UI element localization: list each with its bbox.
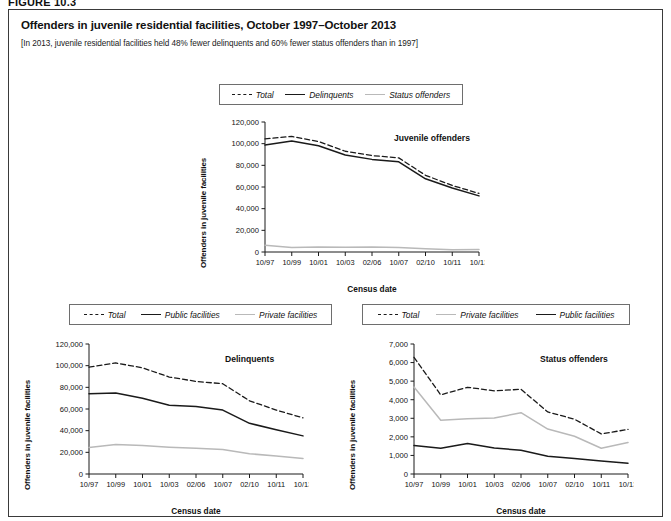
- legend-label: Delinquents: [309, 90, 353, 100]
- series-line: [414, 387, 628, 448]
- svg-text:120,000: 120,000: [232, 118, 259, 127]
- legend-item-public-facilities: Public facilities: [536, 310, 615, 320]
- svg-text:10/97: 10/97: [80, 480, 99, 489]
- svg-text:10/99: 10/99: [432, 480, 451, 489]
- panel-title: Juvenile offenders: [394, 133, 470, 143]
- svg-text:2,000: 2,000: [389, 433, 408, 442]
- svg-text:100,000: 100,000: [56, 361, 83, 370]
- x-axis-title: Census date: [386, 506, 656, 516]
- svg-text:40,000: 40,000: [236, 204, 259, 213]
- svg-text:02/06: 02/06: [363, 258, 382, 267]
- panel-title: Status offenders: [540, 354, 608, 364]
- legend-label: Total: [402, 310, 420, 320]
- svg-text:100,000: 100,000: [232, 139, 259, 148]
- page-title: Offenders in juvenile residential facili…: [21, 19, 396, 31]
- line-chart-svg: 020,00040,00060,00080,000100,000120,0001…: [29, 340, 309, 500]
- legend-item-private-facilities: Private facilities: [436, 310, 518, 320]
- legend-item-public-facilities: Public facilities: [141, 310, 220, 320]
- legend-item-delinquents: Delinquents: [285, 90, 353, 100]
- series-line: [414, 357, 628, 434]
- svg-text:10/13: 10/13: [294, 480, 309, 489]
- plot-status-offenders: 01,0002,0003,0004,0005,0006,0007,00010/9…: [354, 340, 634, 500]
- panel-title: Delinquents: [225, 354, 274, 364]
- legend-label: Total: [256, 90, 274, 100]
- svg-text:02/06: 02/06: [512, 480, 531, 489]
- svg-text:10/01: 10/01: [458, 480, 477, 489]
- svg-text:10/13: 10/13: [619, 480, 634, 489]
- plot-delinquents: 020,00040,00060,00080,000100,000120,0001…: [29, 340, 309, 500]
- svg-text:80,000: 80,000: [236, 161, 259, 170]
- svg-text:10/13: 10/13: [470, 258, 485, 267]
- legend-label: Public facilities: [560, 310, 615, 320]
- line-chart-svg: 01,0002,0003,0004,0005,0006,0007,00010/9…: [354, 340, 634, 500]
- svg-text:60,000: 60,000: [236, 183, 259, 192]
- svg-text:20,000: 20,000: [60, 448, 83, 457]
- panel-delinquents: Total Public facilities Private faciliti…: [9, 300, 344, 515]
- svg-text:7,000: 7,000: [389, 340, 408, 349]
- svg-text:0: 0: [404, 470, 408, 479]
- svg-text:5,000: 5,000: [389, 377, 408, 386]
- x-axis-title: Census date: [237, 284, 507, 294]
- svg-text:02/10: 02/10: [565, 480, 584, 489]
- svg-text:10/07: 10/07: [214, 480, 233, 489]
- svg-text:10/01: 10/01: [309, 258, 328, 267]
- legend-status-offenders: Total Private facilities Public faciliti…: [362, 304, 630, 325]
- series-line: [265, 141, 479, 196]
- svg-text:10/03: 10/03: [336, 258, 355, 267]
- legend-label: Public facilities: [165, 310, 220, 320]
- svg-text:10/11: 10/11: [592, 480, 610, 489]
- svg-text:40,000: 40,000: [60, 426, 83, 435]
- legend-label: Total: [108, 310, 126, 320]
- figure-number: FIGURE 10.3: [8, 0, 76, 8]
- svg-text:02/10: 02/10: [416, 258, 435, 267]
- x-axis-title: Census date: [61, 506, 331, 516]
- svg-text:10/97: 10/97: [405, 480, 424, 489]
- svg-text:10/01: 10/01: [133, 480, 152, 489]
- svg-text:60,000: 60,000: [60, 405, 83, 414]
- legend-item-private-facilities: Private facilities: [235, 310, 317, 320]
- series-line: [89, 363, 303, 418]
- panel-status-offenders: Total Private facilities Public faciliti…: [334, 300, 664, 515]
- svg-text:10/99: 10/99: [107, 480, 126, 489]
- svg-text:10/07: 10/07: [390, 258, 409, 267]
- svg-text:02/10: 02/10: [240, 480, 259, 489]
- svg-text:6,000: 6,000: [389, 358, 408, 367]
- series-line: [265, 245, 479, 250]
- svg-text:0: 0: [79, 470, 83, 479]
- svg-text:10/11: 10/11: [443, 258, 461, 267]
- svg-text:10/97: 10/97: [256, 258, 275, 267]
- legend-delinquents: Total Public facilities Private faciliti…: [69, 304, 332, 325]
- svg-text:10/11: 10/11: [267, 480, 285, 489]
- svg-text:02/06: 02/06: [187, 480, 206, 489]
- legend-juvenile-offenders: Total Delinquents Status offenders: [219, 84, 463, 105]
- svg-text:80,000: 80,000: [60, 383, 83, 392]
- legend-item-status-offenders: Status offenders: [365, 90, 450, 100]
- legend-label: Private facilities: [460, 310, 518, 320]
- panel-juvenile-offenders: Total Delinquents Status offenders Offen…: [9, 70, 664, 305]
- svg-text:10/99: 10/99: [283, 258, 302, 267]
- svg-text:0: 0: [255, 248, 259, 257]
- svg-text:10/03: 10/03: [485, 480, 504, 489]
- svg-text:10/03: 10/03: [160, 480, 179, 489]
- svg-text:10/07: 10/07: [539, 480, 558, 489]
- figure-subtitle: [In 2013, juvenile residential facilitie…: [21, 39, 418, 48]
- legend-item-total: Total: [378, 310, 420, 320]
- legend-label: Status offenders: [389, 90, 450, 100]
- svg-text:4,000: 4,000: [389, 396, 408, 405]
- svg-text:3,000: 3,000: [389, 414, 408, 423]
- series-line: [265, 136, 479, 193]
- svg-text:120,000: 120,000: [56, 340, 83, 349]
- legend-item-total: Total: [84, 310, 126, 320]
- legend-label: Private facilities: [259, 310, 317, 320]
- figure-frame: Offenders in juvenile residential facili…: [8, 9, 663, 517]
- svg-text:1,000: 1,000: [389, 451, 408, 460]
- svg-text:20,000: 20,000: [236, 226, 259, 235]
- series-line: [89, 393, 303, 436]
- series-line: [89, 445, 303, 459]
- legend-item-total: Total: [232, 90, 274, 100]
